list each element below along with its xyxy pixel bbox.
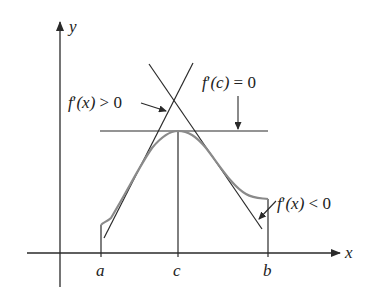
- x-axis-label: x: [344, 243, 353, 262]
- function-curve: [101, 131, 268, 225]
- critical-label: f′(c) = 0: [202, 73, 256, 92]
- tick-label-c: c: [173, 261, 181, 280]
- derivative-diagram: y x a c b f′(x) > 0 f′(c) = 0 f′(x) < 0: [0, 0, 381, 298]
- tick-label-a: a: [96, 261, 105, 280]
- increasing-arrow: [141, 103, 166, 111]
- y-axis-label: y: [67, 17, 77, 36]
- decreasing-label: f′(x) < 0: [277, 194, 331, 213]
- tick-label-b: b: [263, 261, 272, 280]
- increasing-label: f′(x) > 0: [68, 93, 122, 112]
- positive-slope-tangent: [104, 63, 193, 238]
